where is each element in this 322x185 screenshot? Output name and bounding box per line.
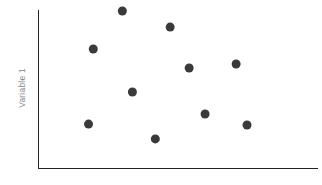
data-point <box>128 88 137 97</box>
data-point <box>185 63 194 72</box>
y-axis-label: Variable 1 <box>17 68 27 108</box>
data-point <box>151 134 160 143</box>
data-point <box>201 109 210 118</box>
data-point <box>118 6 127 15</box>
data-point <box>232 60 241 69</box>
plot-background <box>0 0 322 185</box>
data-point <box>89 45 98 54</box>
y-axis-label-text: Variable 1 <box>17 68 27 108</box>
data-point <box>84 120 93 129</box>
scatter-plot-figure: Variable 1 <box>0 0 322 185</box>
data-point <box>166 23 175 32</box>
scatter-plot-canvas: Variable 1 <box>0 0 322 185</box>
data-point <box>243 121 252 130</box>
